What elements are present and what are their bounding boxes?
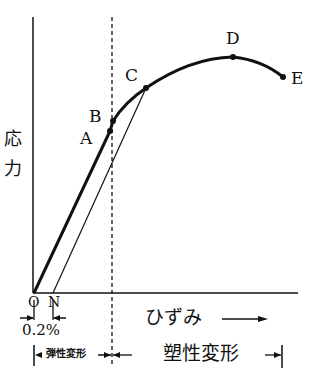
point-c: [143, 85, 149, 91]
point-a: [107, 128, 113, 134]
arrowhead-icon: [258, 316, 268, 322]
point-b: [110, 118, 116, 124]
label-a: A: [80, 130, 92, 147]
label-b: B: [89, 108, 102, 125]
point-e: [280, 74, 286, 80]
offset-value: 0.2%: [22, 323, 60, 338]
plastic-region-label: 塑性変形: [163, 344, 239, 363]
y-axis-label-2: 力: [4, 160, 22, 178]
y-axis-label-1: 応: [4, 130, 22, 148]
arrowhead-icon: [274, 352, 281, 358]
label-d: D: [226, 30, 240, 47]
origin-label: O: [28, 295, 39, 309]
elastic-line: [34, 131, 110, 293]
label-c: C: [125, 67, 138, 84]
label-e: E: [291, 70, 303, 87]
point-d: [230, 54, 236, 60]
x-axis-label: ひずみ: [145, 308, 202, 327]
elastic-region-label: 弾性変形: [46, 349, 86, 359]
arrowhead-icon: [35, 352, 42, 358]
offset-label: N: [48, 295, 60, 309]
